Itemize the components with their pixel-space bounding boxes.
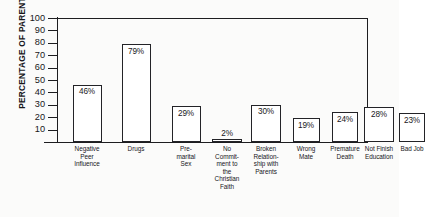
y-axis-tick: 100 — [48, 18, 57, 19]
y-axis-tick: 40 — [48, 92, 57, 93]
bar-value-label: 79% — [128, 47, 144, 56]
y-axis-tick: 80 — [48, 43, 57, 44]
category-label-line: Pre- — [163, 145, 209, 153]
y-axis-tick-label: 10 — [35, 124, 45, 134]
y-axis-tick-label: 20 — [35, 112, 45, 122]
plot-area: 102030405060708090100 46%79%29%2%30%19%2… — [57, 18, 368, 142]
y-axis-tick: 50 — [48, 80, 57, 81]
category-label-line: ship with — [243, 160, 289, 168]
category-label-line: Sex — [163, 160, 209, 168]
y-axis-tick-label: 70 — [35, 50, 45, 60]
bar-value-label: 30% — [258, 107, 274, 116]
bar-value-label: 23% — [404, 116, 420, 125]
bar-value-label: 28% — [371, 110, 387, 119]
y-axis-tick-label: 90 — [35, 25, 45, 35]
category-label-line: Education — [356, 153, 402, 161]
category-label-line: marital — [163, 153, 209, 161]
bar-value-label: 46% — [79, 87, 95, 96]
bar: 46% — [73, 85, 102, 142]
category-label-line: Drugs — [113, 145, 159, 153]
bar-value-label: 2% — [221, 129, 233, 138]
y-axis-tick: 90 — [48, 30, 57, 31]
bar-value-label: 24% — [337, 115, 353, 124]
bar: 30% — [251, 105, 281, 142]
y-axis-tick-label: 100 — [30, 13, 45, 23]
y-axis-tick: 70 — [48, 55, 57, 56]
plot-top-border — [57, 18, 368, 19]
y-axis-tick-label: 30 — [35, 99, 45, 109]
bar: 19% — [293, 118, 320, 142]
y-axis-tick: 20 — [48, 117, 57, 118]
y-axis-tick-label: 40 — [35, 87, 45, 97]
y-axis-title: PERCENTAGE OF PARENTS — [17, 0, 27, 120]
category-label: Bad Job — [389, 145, 429, 153]
bar: 79% — [122, 44, 151, 142]
category-label-line: Negative — [64, 145, 110, 153]
category-label: Pre-maritalSex — [163, 145, 209, 168]
y-axis-tick: 10 — [48, 130, 57, 131]
category-label-line: Parents — [243, 168, 289, 176]
y-axis-tick: 30 — [48, 105, 57, 106]
bar-value-label: 29% — [178, 109, 194, 118]
category-label-line: Bad Job — [389, 145, 429, 153]
category-label-line: Influence — [64, 160, 110, 168]
category-label-line: Faith — [204, 183, 250, 191]
x-axis-line — [44, 142, 368, 143]
y-axis-tick: 60 — [48, 68, 57, 69]
category-label: Drugs — [113, 145, 159, 153]
category-label-line: Peer — [64, 153, 110, 161]
y-axis-tick-label: 50 — [35, 75, 45, 85]
bar: 28% — [364, 107, 394, 142]
y-axis-tick-label: 80 — [35, 37, 45, 47]
y-axis-line — [57, 17, 58, 142]
category-label: NegativePeerInfluence — [64, 145, 110, 168]
y-axis-tick-label: 60 — [35, 62, 45, 72]
bar: 23% — [399, 113, 425, 142]
bar-value-label: 19% — [298, 121, 314, 130]
category-label-line: Christian — [204, 175, 250, 183]
bar: 2% — [212, 139, 242, 143]
bar: 24% — [332, 112, 358, 142]
bar: 29% — [172, 106, 201, 142]
